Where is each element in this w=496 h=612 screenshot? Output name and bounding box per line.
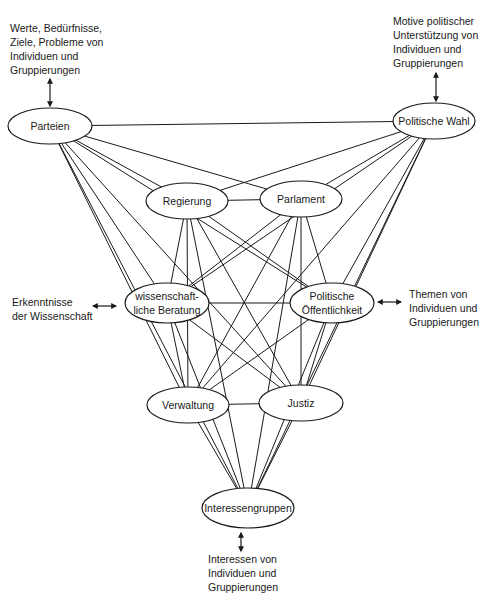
edge-parteien-verwaltung [59, 144, 180, 388]
node-label: Öffentlichkeit [302, 304, 363, 316]
edge-justiz-interessengruppen [258, 421, 292, 489]
label-line: Themen von [409, 287, 479, 301]
external-label-werte: Werte, Bedürfnisse,Ziele, Probleme vonIn… [10, 21, 103, 77]
node-label: Regierung [163, 195, 212, 207]
label-line: der Wissenschaft [12, 309, 93, 323]
edge-politische-oeffentlichkeit-verwaltung [210, 320, 309, 390]
external-label-interessen: Interessen vonIndividuen undGruppierunge… [208, 552, 278, 594]
label-line: Individuen und [393, 42, 478, 56]
node-label: liche Beratung [133, 304, 200, 316]
label-line: Gruppierungen [409, 315, 479, 329]
edge-verwaltung-interessengruppen [198, 422, 237, 488]
label-line: Individuen und [409, 301, 479, 315]
edge-wissenschaftliche-beratung-verwaltung [171, 323, 184, 387]
node-label: Verwaltung [162, 399, 214, 411]
edge-politische-wahl-verwaltung [203, 138, 420, 388]
label-line: Werte, Bedürfnisse, [10, 21, 103, 35]
edge-regierung-parlament [228, 200, 260, 201]
label-line: Gruppierungen [10, 63, 103, 77]
edge-politische-wahl-politische-oeffentlichkeit [343, 138, 424, 283]
node-politische-oeffentlichkeit: PolitischeÖffentlichkeit [290, 283, 374, 323]
edge-parlament-interessengruppen [251, 217, 298, 488]
node-wissenschaftliche-beratung: wissenschaft-liche Beratung [125, 283, 209, 323]
node-parteien: Parteien [8, 108, 92, 144]
edge-parteien-parlament [85, 136, 267, 189]
external-label-themen: Themen vonIndividuen undGruppierungen [409, 287, 479, 329]
node-verwaltung: Verwaltung [147, 387, 229, 423]
node-label: Politische Wahl [398, 115, 469, 127]
edge-verwaltung-justiz [229, 404, 259, 405]
node-label: Justiz [288, 397, 315, 409]
external-label-motive: Motive politischerUnterstützung vonIndiv… [393, 14, 478, 70]
edge-regierung-wissenschaftliche-beratung [171, 219, 184, 283]
label-line: Motive politischer [393, 14, 478, 28]
edge-parteien-politische-wahl [92, 122, 393, 126]
label-line: Erkenntnisse [12, 295, 93, 309]
node-ellipse [125, 283, 209, 323]
label-line: Ziele, Probleme von [10, 35, 103, 49]
external-label-erkenntnisse: Erkenntnisseder Wissenschaft [12, 295, 93, 323]
edge-parteien-regierung [76, 140, 161, 187]
label-line: Unterstützung von [393, 28, 478, 42]
label-line: Individuen und [208, 566, 278, 580]
edge-parteien-wissenschaftliche-beratung [61, 143, 154, 284]
node-label: Parlament [277, 193, 325, 205]
edge-politische-oeffentlichkeit-justiz [307, 323, 326, 385]
node-label: Parteien [30, 120, 69, 132]
arrows-group [50, 73, 436, 551]
edge-parlament-wissenschaftliche-beratung [189, 215, 281, 286]
node-label: wissenschaft- [134, 290, 199, 302]
node-parlament: Parlament [260, 181, 342, 217]
node-label: Politische [310, 290, 355, 302]
label-line: Interessen von [208, 552, 278, 566]
label-line: Individuen und [10, 49, 103, 63]
node-regierung: Regierung [146, 183, 228, 219]
node-interessengruppen: Interessengruppen [202, 488, 294, 528]
node-ellipse [290, 283, 374, 323]
node-justiz: Justiz [259, 385, 343, 421]
edge-parlament-politische-oeffentlichkeit [306, 217, 326, 283]
node-politische-wahl: Politische Wahl [393, 103, 475, 139]
label-line: Gruppierungen [393, 56, 478, 70]
node-label: Interessengruppen [204, 502, 292, 514]
label-line: Gruppierungen [208, 580, 278, 594]
